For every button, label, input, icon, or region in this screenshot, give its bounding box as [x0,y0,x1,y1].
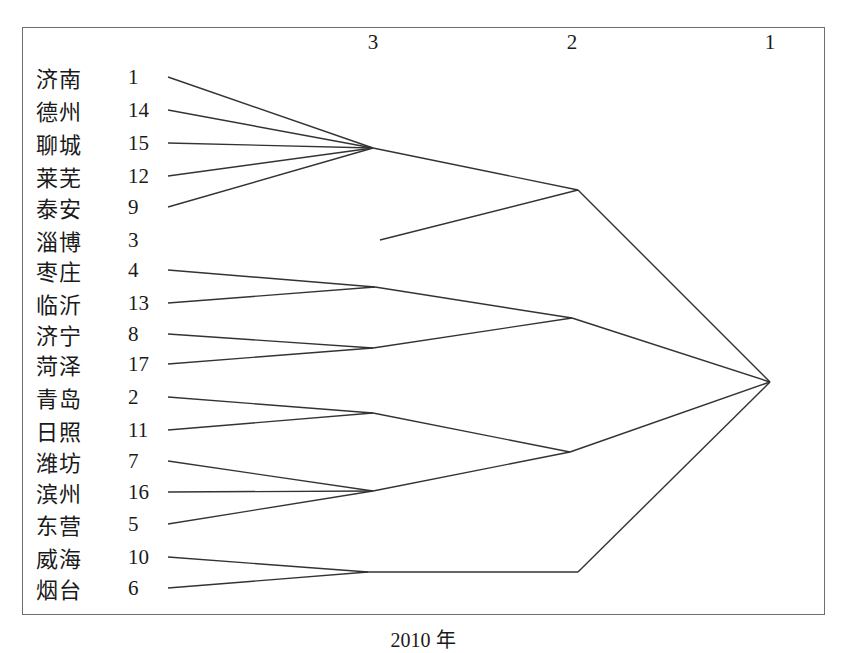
link-leaf-泰安 [168,148,373,207]
link-leaf-枣庄 [168,270,375,287]
link-leaf-临沂 [168,287,375,303]
link-leaf-济宁 [168,334,373,348]
link-leaf-烟台 [168,572,368,588]
link-leaf-滨州 [168,491,373,492]
link-zaozhuang-to-southwest [375,287,572,318]
link-leaf-德州 [168,110,373,148]
link-leaf-聊城 [168,143,373,148]
figure-caption: 2010 年 [0,624,846,653]
link-leaf-菏泽 [168,348,373,364]
link-leaf-济南 [168,77,373,148]
link-north-to-root [578,190,770,382]
link-jining-to-southwest [373,318,572,348]
link-southwest-to-root [572,318,770,382]
link-leaf-青岛 [168,397,373,413]
link-leaf-威海 [168,557,368,572]
link-east-to-root [570,382,770,452]
link-leaf-东营 [168,491,373,524]
link-leaf-莱芜 [168,148,373,176]
link-qingdao-to-east [373,413,570,452]
link-peninsula-to-root [578,382,770,572]
link-weifang-to-east [373,452,570,491]
link-zibo-to-north [380,190,578,240]
link-leaf-日照 [168,413,373,430]
link-jinan-to-north [373,148,578,190]
link-leaf-潍坊 [168,461,373,491]
